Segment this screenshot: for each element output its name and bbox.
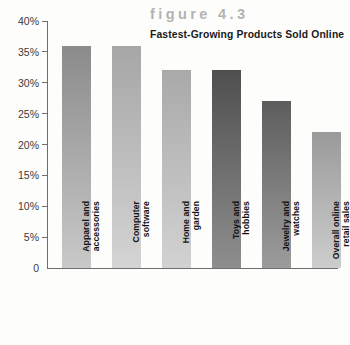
y-axis-tick-label: 15% <box>5 170 39 180</box>
x-axis-category-label: Home and garden <box>182 201 196 273</box>
y-axis-tick-label: 40% <box>5 16 39 26</box>
y-axis-tick-label: 30% <box>5 78 39 88</box>
y-axis-tick-label: 25% <box>5 109 39 119</box>
x-axis-category-label: Jewelry and watches <box>282 201 296 273</box>
y-axis-tick-label: 10% <box>5 201 39 211</box>
x-axis-category-label: Computer software <box>132 201 146 273</box>
figure-container: figure 4.3 Fastest-Growing Products Sold… <box>0 0 350 345</box>
x-axis-category-label: Overall online retail sales <box>332 201 346 273</box>
y-axis-tick-label: 20% <box>5 140 39 150</box>
y-axis-tick-label: 5% <box>5 232 39 242</box>
x-axis-category-label: Toys and hobbies <box>232 201 246 273</box>
x-axis-category-label: Apparel and accessories <box>82 201 96 273</box>
y-axis-tick-label: 0 <box>5 263 39 273</box>
y-axis-tick-label: 35% <box>5 47 39 57</box>
